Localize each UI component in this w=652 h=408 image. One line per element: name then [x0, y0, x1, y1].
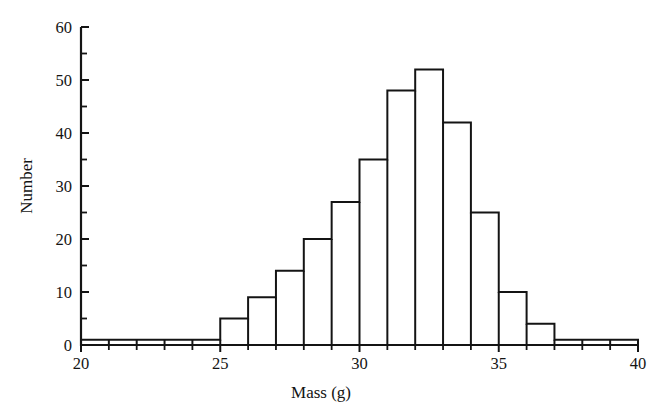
x-axis-title: Mass (g) [291, 383, 351, 402]
x-tick-label: 20 [73, 354, 90, 373]
y-tick-label: 0 [64, 336, 72, 355]
x-tick-label: 40 [630, 354, 647, 373]
x-tick-label: 35 [491, 354, 508, 373]
y-axis-title: Number [17, 158, 36, 214]
histogram-figure: 2025303540 0102030405060 Mass (g) Number [0, 0, 652, 408]
y-tick-label: 40 [56, 124, 73, 143]
y-tick-label: 30 [56, 177, 73, 196]
y-tick-label: 50 [56, 71, 73, 90]
y-tick-label: 20 [56, 230, 73, 249]
x-tick-label: 30 [351, 354, 368, 373]
x-tick-label: 25 [212, 354, 229, 373]
y-tick-label: 10 [56, 283, 73, 302]
histogram-chart: 2025303540 0102030405060 Mass (g) Number [0, 0, 652, 408]
y-tick-label: 60 [56, 18, 73, 37]
